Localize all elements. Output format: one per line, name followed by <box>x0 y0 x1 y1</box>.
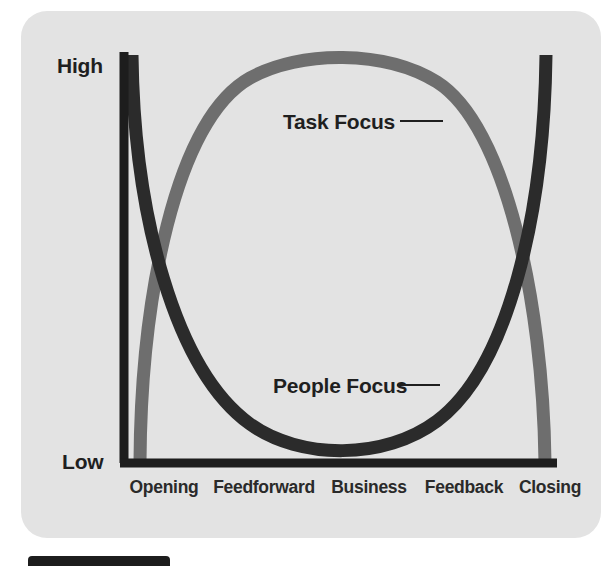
y-axis-low-label: Low <box>62 450 103 474</box>
series-label-task-focus: Task Focus <box>283 110 395 134</box>
series-label-people-focus: People Focus <box>273 374 407 398</box>
y-axis-high-label: High <box>57 54 103 78</box>
x-tick-label-closing: Closing <box>505 477 595 498</box>
x-tick-label-feedforward: Feedforward <box>196 477 332 498</box>
x-tick-label-feedback: Feedback <box>412 477 516 498</box>
bottom-caption-bar <box>28 556 170 566</box>
x-tick-label-business: Business <box>316 477 422 498</box>
